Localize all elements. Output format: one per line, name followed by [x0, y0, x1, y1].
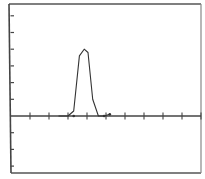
data-point-marker	[103, 115, 106, 118]
data-point-marker	[72, 115, 75, 118]
data-point-marker	[109, 113, 112, 116]
plot-background	[0, 0, 205, 179]
line-plot	[0, 0, 205, 179]
